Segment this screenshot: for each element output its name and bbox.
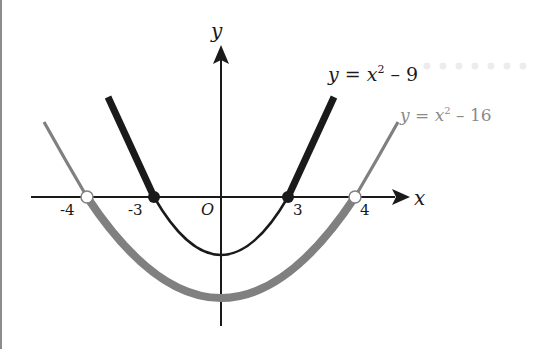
root-marker-neg3 xyxy=(148,191,160,203)
y-axis xyxy=(213,45,229,326)
tick-label-pos4: 4 xyxy=(360,201,370,219)
origin-label: O xyxy=(201,200,214,219)
decorative-dots xyxy=(424,63,527,70)
tick-label-neg3: -3 xyxy=(128,201,143,219)
tick-label-neg4: -4 xyxy=(60,201,75,219)
label-x2-minus-16: y = x2 – 16 xyxy=(399,105,492,125)
x-axis-label: x xyxy=(414,186,425,210)
tick-label-pos3: 3 xyxy=(293,201,303,219)
diagram-canvas: y x O -4 -3 3 4 y = x2 – 9 y = x2 – 16 xyxy=(0,0,534,349)
parabola-graph: y x O -4 -3 3 4 y = x2 – 9 y = x2 – 16 xyxy=(0,0,534,349)
label-x2-minus-9: y = x2 – 9 xyxy=(327,63,418,85)
root-marker-neg4 xyxy=(81,191,93,203)
y-axis-label: y xyxy=(210,19,223,43)
